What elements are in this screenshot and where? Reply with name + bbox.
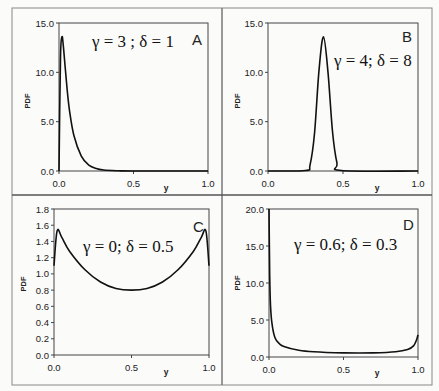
pdf-curve-a [59,36,208,171]
y-tick-label: 10.0 [245,67,264,78]
plot-area-d [269,209,418,357]
y-tick-label: 0.8 [36,285,49,296]
x-axis-label-c: y [164,367,169,377]
y-axis-label-b: PDF [233,93,242,108]
plot-area-b [268,23,418,171]
y-tick-label: 5.0 [250,116,263,127]
x-axis-ticks-c: 0.00.51.0 [47,355,215,373]
y-tick-label: 0.0 [250,166,263,177]
parameter-annotation-d: γ = 0.6; δ = 0.3 [293,235,397,254]
x-tick-label: 0.5 [337,364,350,375]
y-axis-ticks-b: 0.05.010.015.0 [245,18,269,177]
y-tick-label: 20.0 [246,204,265,215]
y-tick-label: 15.0 [245,18,264,29]
y-axis-ticks-a: 0.05.010.015.0 [36,18,60,177]
panel-d: 0.05.010.015.020.0 0.00.51.0 PDF y γ = 0… [233,204,425,379]
y-tick-label: 5.0 [251,315,264,326]
x-tick-label: 0.5 [125,362,138,373]
panel-letter-d: D [403,216,414,233]
figure-canvas: 0.05.010.015.0 0.00.51.0 PDF y γ = 3 ; δ… [0,0,439,391]
plot-area-c [54,209,209,355]
y-tick-label: 0.0 [36,350,49,361]
x-tick-label: 0.0 [262,364,275,375]
y-axis-label-a: PDF [23,93,32,108]
x-tick-label: 0.0 [52,178,65,189]
x-tick-label: 1.0 [411,364,424,375]
x-axis-ticks-a: 0.00.51.0 [52,171,214,189]
y-tick-label: 0.0 [251,352,264,363]
x-axis-ticks-b: 0.00.51.0 [261,171,424,189]
pdf-curve-d [269,209,418,353]
y-tick-label: 1.6 [36,220,49,231]
panel-a: 0.05.010.015.0 0.00.51.0 PDF y γ = 3 ; δ… [23,18,215,194]
panel-letter-a: A [192,31,202,48]
x-tick-label: 0.0 [47,362,60,373]
x-axis-ticks-d: 0.00.51.0 [262,357,424,375]
y-tick-label: 1.4 [36,236,49,247]
y-tick-label: 0.0 [41,166,54,177]
figure: 0.05.010.015.0 0.00.51.0 PDF y γ = 3 ; δ… [0,0,439,391]
x-tick-label: 1.0 [411,178,424,189]
y-tick-label: 0.2 [36,333,49,344]
y-tick-label: 0.6 [36,301,49,312]
y-axis-ticks-c: 0.00.20.40.60.81.01.21.41.61.8 [36,204,54,361]
parameter-annotation-c: γ = 0; δ = 0.5 [82,237,173,256]
x-tick-label: 1.0 [202,362,215,373]
panel-letter-b: B [402,28,412,45]
y-tick-label: 1.2 [36,252,49,263]
y-tick-label: 15.0 [36,18,55,29]
panel-c: 0.00.20.40.60.81.01.21.41.61.8 0.00.51.0… [19,204,216,378]
parameter-annotation-a: γ = 3 ; δ = 1 [91,32,174,51]
y-tick-label: 0.4 [36,317,49,328]
y-tick-label: 10.0 [246,278,265,289]
y-axis-label-d: PDF [233,275,242,290]
y-axis-label-c: PDF [19,276,28,291]
y-tick-label: 10.0 [36,67,55,78]
x-axis-label-a: y [164,183,169,193]
y-tick-label: 15.0 [246,241,265,252]
y-tick-label: 1.0 [36,268,49,279]
y-tick-label: 1.8 [36,204,49,215]
parameter-annotation-b: γ = 4; δ = 8 [333,51,412,70]
x-axis-label-d: y [375,368,380,378]
y-axis-ticks-d: 0.05.010.015.020.0 [246,204,270,363]
x-tick-label: 0.5 [336,178,349,189]
x-tick-label: 0.0 [261,178,274,189]
x-tick-label: 0.5 [127,178,140,189]
panel-b: 0.05.010.015.0 0.00.51.0 PDF y γ = 4; δ … [233,18,425,194]
y-tick-label: 5.0 [41,116,54,127]
x-axis-label-b: y [375,183,380,193]
panel-letter-c: C [193,218,204,235]
x-tick-label: 1.0 [201,178,214,189]
